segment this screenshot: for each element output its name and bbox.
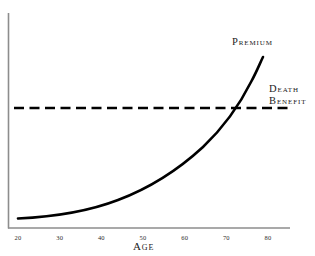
- death-benefit-label-line-1: Death: [269, 83, 306, 95]
- premium-vs-death-benefit-chart: Premium Death Benefit Age 20304050607080: [0, 0, 315, 256]
- death-benefit-label-line-2: Benefit: [269, 95, 306, 107]
- x-tick-label-50: 50: [140, 234, 147, 241]
- x-tick-label-30: 30: [56, 234, 63, 241]
- x-tick-label-60: 60: [181, 234, 188, 241]
- death-benefit-series-label: Death Benefit: [269, 83, 306, 107]
- x-tick-label-70: 70: [223, 234, 230, 241]
- x-tick-label-40: 40: [98, 234, 105, 241]
- premium-series-label: Premium: [232, 36, 273, 48]
- x-tick-label-20: 20: [15, 234, 22, 241]
- x-axis-title: Age: [133, 240, 154, 252]
- x-tick-label-80: 80: [265, 234, 272, 241]
